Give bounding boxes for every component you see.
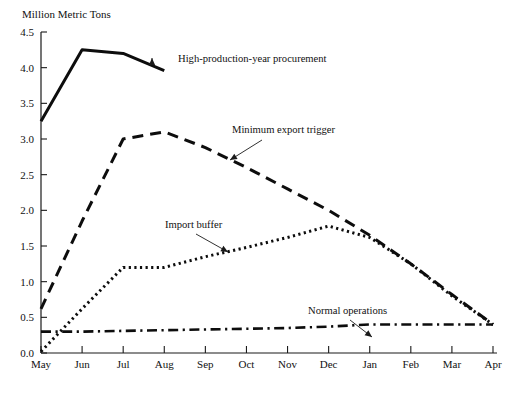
annotations: High-production-year procurementMinimum … [149, 53, 387, 337]
x-tick-label: Mar [443, 358, 462, 370]
y-axis-ticks: 0.00.51.01.52.02.53.03.54.04.5 [20, 26, 47, 359]
x-tick-label: Aug [155, 358, 174, 370]
x-tick-label: Nov [278, 358, 297, 370]
x-tick-label: Jun [74, 358, 90, 370]
y-tick-label: 2.5 [20, 169, 34, 181]
y-tick-label: 1.5 [20, 240, 34, 252]
y-tick-label: 3.0 [20, 133, 34, 145]
annotation-arrowhead-icon [230, 154, 238, 160]
x-tick-label: Feb [403, 358, 420, 370]
x-tick-label: Sep [197, 358, 214, 370]
y-tick-label: 3.5 [20, 97, 34, 109]
annotation-label: Minimum export trigger [232, 124, 335, 135]
chart-container: Million Metric Tons 0.00.51.01.52.02.53.… [0, 0, 515, 393]
x-tick-label: Apr [484, 358, 501, 370]
series-line [41, 50, 164, 121]
series-line [41, 226, 493, 352]
line-chart: Million Metric Tons 0.00.51.01.52.02.53.… [0, 0, 515, 393]
x-tick-label: Dec [320, 358, 338, 370]
y-tick-label: 1.0 [20, 276, 34, 288]
y-tick-label: 0.5 [20, 311, 34, 323]
y-axis-title: Million Metric Tons [22, 8, 111, 20]
series-lines [41, 50, 493, 352]
x-tick-label: Oct [239, 358, 255, 370]
annotation-label: High-production-year procurement [178, 53, 327, 64]
annotation-arrowhead-icon [365, 330, 372, 337]
annotation-arrowhead-icon [149, 58, 155, 65]
y-tick-label: 2.0 [20, 204, 34, 216]
annotation-arrowhead-icon [220, 246, 228, 252]
series-line [41, 324, 493, 331]
x-axis-ticks: MayJunJulAugSepOctNovDecJanFebMarApr [31, 346, 502, 370]
x-tick-label: Jan [362, 358, 377, 370]
series-line [41, 132, 493, 325]
y-tick-label: 4.0 [20, 62, 34, 74]
annotation-label: Import buffer [165, 219, 223, 230]
x-tick-label: Jul [117, 358, 130, 370]
annotation-label: Normal operations [308, 305, 387, 316]
y-tick-label: 4.5 [20, 26, 34, 38]
x-tick-label: May [31, 358, 52, 370]
